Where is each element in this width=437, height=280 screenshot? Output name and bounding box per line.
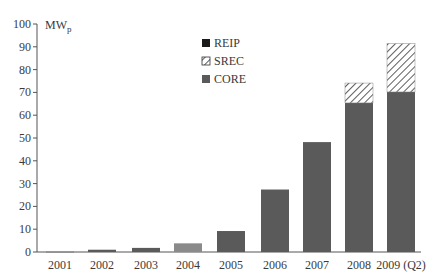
- x-tick-label: 2006: [263, 258, 287, 272]
- x-axis-labels: 200120022003200420052006200720082009 (Q2…: [48, 258, 426, 272]
- bar-core-2003: [132, 248, 160, 252]
- bar-core-2001: [46, 252, 74, 253]
- y-axis-unit-label: MWp: [45, 18, 72, 34]
- y-tick-label: 60: [19, 108, 31, 122]
- bar-core-2009-q2-: [387, 92, 415, 252]
- x-tick-label: 2002: [90, 258, 114, 272]
- y-tick-label: 0: [25, 245, 31, 259]
- y-tick-label: 40: [19, 154, 31, 168]
- y-tick-label: 100: [13, 17, 31, 31]
- bar-core-2004: [174, 243, 202, 252]
- x-tick-label: 2001: [48, 258, 72, 272]
- legend-core-swatch: [202, 75, 210, 83]
- x-tick-label: 2003: [134, 258, 158, 272]
- x-tick-label: 2009 (Q2): [376, 258, 426, 272]
- bar-srec-2009-q2-: [387, 44, 415, 92]
- bar-core-2007: [303, 142, 331, 252]
- bar-chart: 0102030405060708090100 MWp 2001200220032…: [0, 0, 437, 280]
- y-axis-ticks: 0102030405060708090100: [13, 17, 37, 259]
- y-tick-label: 30: [19, 177, 31, 191]
- x-tick-label: 2005: [219, 258, 243, 272]
- y-tick-label: 70: [19, 85, 31, 99]
- x-tick-label: 2007: [305, 258, 329, 272]
- legend-core-label: CORE: [214, 72, 246, 86]
- x-tick-label: 2004: [176, 258, 200, 272]
- legend-reip-swatch: [202, 39, 210, 47]
- bar-core-2008: [345, 103, 373, 252]
- y-tick-label: 80: [19, 63, 31, 77]
- bar-core-2005: [217, 231, 245, 252]
- legend: REIP SREC CORE: [202, 36, 246, 86]
- legend-reip-label: REIP: [214, 36, 240, 50]
- legend-srec-label: SREC: [214, 54, 244, 68]
- bar-srec-2008: [345, 83, 373, 103]
- bar-core-2002: [88, 250, 116, 252]
- y-tick-label: 50: [19, 131, 31, 145]
- x-tick-label: 2008: [347, 258, 371, 272]
- y-tick-label: 90: [19, 40, 31, 54]
- bar-core-2006: [261, 190, 289, 252]
- y-tick-label: 20: [19, 199, 31, 213]
- y-tick-label: 10: [19, 222, 31, 236]
- legend-srec-swatch: [202, 57, 210, 65]
